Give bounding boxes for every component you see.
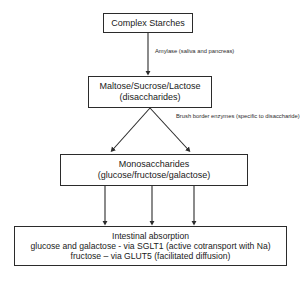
node-complex-starches-line-1: Complex Starches xyxy=(111,18,185,29)
node-intestinal-absorption-line-2: glucose and galactose - via SGLT1 (activ… xyxy=(30,241,270,251)
flowchart-canvas: Complex Starches Amylase (saliva and pan… xyxy=(0,0,303,287)
arrow-disaccharides-to-monosaccharides-left xyxy=(112,108,150,151)
edge-label-amylase: Amylase (saliva and pancreas) xyxy=(155,48,234,56)
node-monosaccharides-line-2: (glucose/fructose/galactose) xyxy=(98,170,211,181)
node-disaccharides-line-2: (disaccharides) xyxy=(119,92,180,103)
node-monosaccharides: Monosaccharides (glucose/fructose/galact… xyxy=(60,154,248,186)
edge-label-brush-border-line-1: Brush border enzymes xyxy=(176,113,234,119)
node-intestinal-absorption-line-1: Intestinal absorption xyxy=(112,231,189,241)
node-complex-starches: Complex Starches xyxy=(103,13,193,33)
node-intestinal-absorption-line-3: fructose – via GLUT5 (facilitated diffus… xyxy=(71,251,231,261)
node-monosaccharides-line-1: Monosaccharides xyxy=(119,159,190,170)
node-intestinal-absorption: Intestinal absorption glucose and galact… xyxy=(14,226,287,266)
node-disaccharides: Maltose/Sucrose/Lactose (disaccharides) xyxy=(88,76,212,108)
edge-label-brush-border-enzymes: Brush border enzymes (specific to disacc… xyxy=(176,113,300,121)
edge-label-brush-border-line-2: (specific to disaccharide) xyxy=(236,113,300,119)
node-disaccharides-line-1: Maltose/Sucrose/Lactose xyxy=(99,81,200,92)
edge-label-amylase-line-1: Amylase (saliva and pancreas) xyxy=(155,48,234,54)
